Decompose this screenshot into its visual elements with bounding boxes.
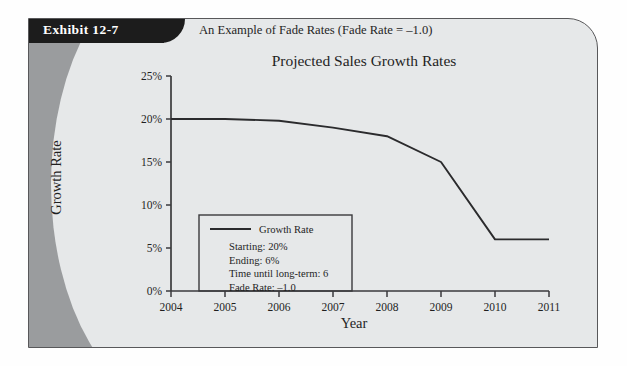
series-line-growth-rate <box>171 119 549 239</box>
y-axis-tick-group: 0%5%10%15%20%25% <box>141 70 171 297</box>
exhibit-figure-panel: Exhibit 12-7 An Example of Fade Rates (F… <box>28 18 598 348</box>
x-tick-label: 2005 <box>214 301 237 313</box>
x-tick-label: 2004 <box>160 301 183 313</box>
y-tick-label: 25% <box>141 70 163 82</box>
x-tick-label: 2008 <box>376 301 399 313</box>
legend-detail-line: Starting: 20% <box>229 241 288 252</box>
x-tick-label: 2011 <box>538 301 561 313</box>
y-tick-label: 0% <box>147 285 163 297</box>
y-axis-label: Growth Rate <box>48 118 65 238</box>
x-axis-tick-group: 20042005200620072008200920102011 <box>160 291 561 313</box>
x-tick-label: 2006 <box>268 301 291 313</box>
legend-series-label: Growth Rate <box>259 224 314 235</box>
y-tick-label: 5% <box>147 242 163 254</box>
x-tick-label: 2007 <box>322 301 345 313</box>
chart-legend: Growth RateStarting: 20%Ending: 6%Time u… <box>199 215 352 293</box>
chart-title: Projected Sales Growth Rates <box>144 52 584 70</box>
exhibit-badge-label: Exhibit 12-7 <box>43 22 119 38</box>
x-tick-label: 2010 <box>484 301 507 313</box>
screenshot-root: Exhibit 12-7 An Example of Fade Rates (F… <box>0 0 627 366</box>
x-tick-label: 2009 <box>430 301 453 313</box>
x-axis-label: Year <box>144 315 564 332</box>
y-tick-label: 10% <box>141 199 163 211</box>
y-tick-label: 20% <box>141 113 163 125</box>
exhibit-caption: An Example of Fade Rates (Fade Rate = –1… <box>199 23 432 38</box>
series-group <box>171 119 549 239</box>
legend-detail-line: Time until long-term: 6 <box>229 268 328 279</box>
legend-detail-line: Fade Rate: –1.0 <box>229 282 296 293</box>
axis-lines <box>171 76 549 291</box>
legend-detail-line: Ending: 6% <box>229 255 279 266</box>
y-tick-label: 15% <box>141 156 163 168</box>
